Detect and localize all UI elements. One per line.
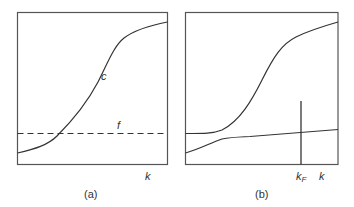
caption-b: (b) — [255, 188, 268, 200]
panel-a-frame — [18, 13, 168, 165]
figure: c f k (a) kF k (b) — [0, 0, 354, 207]
kf-label: kF — [296, 170, 308, 184]
curve-upper — [186, 22, 339, 134]
caption-a: (a) — [84, 188, 97, 200]
x-axis-label-b: k — [319, 170, 325, 182]
curve-f-label: f — [117, 119, 121, 131]
curve-c-label: c — [101, 70, 107, 82]
panel-b-frame — [186, 13, 339, 165]
x-axis-label-a: k — [145, 170, 151, 182]
panel-a: c f k (a) — [18, 13, 168, 201]
panel-b: kF k (b) — [186, 13, 339, 201]
